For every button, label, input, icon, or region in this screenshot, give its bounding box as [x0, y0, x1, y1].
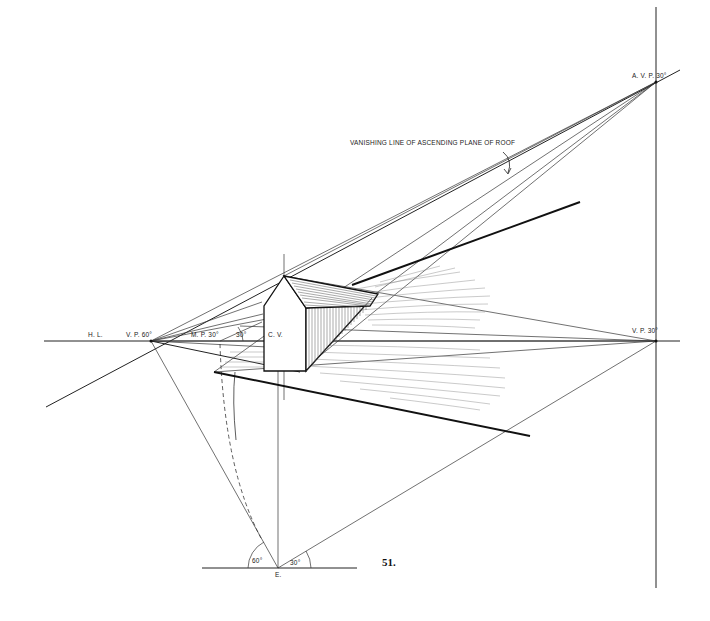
avp-point: [655, 81, 658, 84]
label-mp-30: M. P. 30°: [191, 331, 219, 338]
vp-60-point: [150, 340, 153, 343]
angle-arc-30: [306, 551, 311, 568]
label-angle-60: 60°: [252, 557, 263, 564]
label-cv: C. V.: [268, 331, 283, 338]
avp-ray-3: [340, 82, 656, 290]
avp-ray-5: [370, 82, 656, 298]
vp-30-point: [655, 340, 658, 343]
roof-edge-thick-line: [352, 202, 580, 285]
measuring-arc-solid: [234, 372, 236, 440]
label-station-point: E.: [275, 571, 282, 578]
figure-number: 51.: [382, 556, 396, 568]
ray-to-vp30: [278, 341, 656, 568]
angle-arc-60: [248, 542, 264, 568]
ray-to-vp60: [151, 341, 278, 568]
annotation-arrowhead: [504, 168, 511, 174]
label-angle-30-station: 30°: [290, 559, 301, 566]
measuring-arc: [220, 344, 262, 540]
ascending-vanishing-line: [46, 70, 680, 407]
avp-ray-2: [284, 82, 656, 276]
annotation-label: VANISHING LINE OF ASCENDING PLANE OF ROO…: [350, 139, 515, 146]
label-vp-60: V. P. 60°: [126, 331, 152, 338]
avp-ray-1: [151, 82, 656, 341]
perspective-diagram: VANISHING LINE OF ASCENDING PLANE OF ROO…: [0, 0, 710, 621]
label-horizon-line: H. L.: [88, 331, 103, 338]
label-vp-30: V. P. 30°: [632, 327, 658, 334]
label-avp-30: A. V. P. 30°: [632, 72, 667, 79]
ground-edge-thick-line: [214, 372, 530, 436]
label-angle-30-mp: 30°: [236, 331, 247, 338]
house: [264, 276, 378, 371]
avp-ray-4: [305, 82, 656, 368]
